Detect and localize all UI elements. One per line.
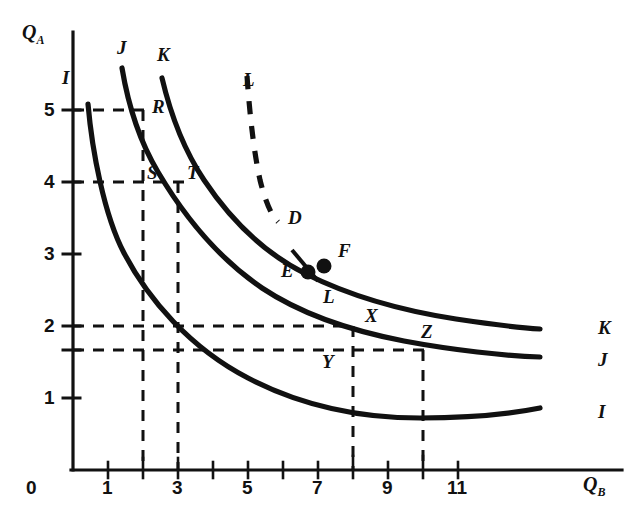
point-dot-e (301, 265, 316, 280)
curve-label-i-top: I (62, 68, 69, 87)
curve-i (88, 104, 540, 418)
curve-label-i-right: I (598, 402, 605, 421)
y-tick-label-5: 5 (44, 100, 55, 119)
curve-label-l-top: L (243, 70, 255, 89)
x-tick-label-7: 7 (312, 478, 323, 497)
curve-label-k-right: K (598, 318, 611, 337)
point-label-t: T (187, 163, 199, 182)
curve-k (162, 78, 540, 329)
x-tick-label-0: 0 (26, 478, 37, 497)
point-label-y: Y (322, 352, 334, 371)
curve-label-k-top: K (157, 45, 170, 64)
x-tick-label-5: 5 (242, 478, 253, 497)
y-tick-label-2: 2 (44, 316, 55, 335)
figure-canvas: QA QB 0 1 3 5 7 9 11 1 2 3 4 5 I J K L K… (0, 0, 630, 526)
point-label-d: D (288, 208, 302, 227)
y-axis-title: QA (22, 22, 44, 46)
point-label-x: X (365, 306, 378, 325)
x-tick-label-11: 11 (447, 478, 467, 497)
x-axis-ticks (108, 456, 458, 478)
point-label-e: E (281, 261, 294, 280)
point-label-l: L (323, 287, 335, 306)
point-label-z: Z (421, 322, 433, 341)
point-dot-f (317, 259, 332, 274)
curve-j (122, 68, 540, 357)
x-axis-title: QB (583, 474, 605, 498)
curve-l-dashed (247, 76, 278, 222)
y-tick-label-3: 3 (44, 244, 55, 263)
point-label-s: S (147, 163, 158, 182)
y-tick-label-1: 1 (44, 388, 55, 407)
x-tick-label-3: 3 (172, 478, 183, 497)
chart-svg (0, 0, 630, 526)
point-label-f: F (338, 241, 351, 260)
curve-label-j-top: J (117, 38, 127, 57)
y-tick-label-4: 4 (44, 172, 55, 191)
x-tick-label-1: 1 (102, 478, 113, 497)
point-label-r: R (152, 97, 165, 116)
curve-label-j-right: J (598, 350, 608, 369)
x-tick-label-9: 9 (382, 478, 393, 497)
